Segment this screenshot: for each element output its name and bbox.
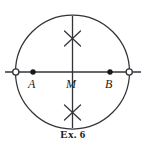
right-intersection-point (126, 69, 132, 75)
geometry-figure: A M B Ex. 6 (0, 0, 146, 147)
point-label-a: A (28, 78, 35, 90)
point-A-marker (30, 69, 35, 74)
left-intersection-point (13, 69, 19, 75)
figure-caption: Ex. 6 (0, 129, 146, 140)
geometry-canvas (0, 0, 146, 147)
point-label-b: B (105, 78, 112, 90)
point-B-marker (107, 69, 112, 74)
point-label-m: M (66, 78, 76, 90)
